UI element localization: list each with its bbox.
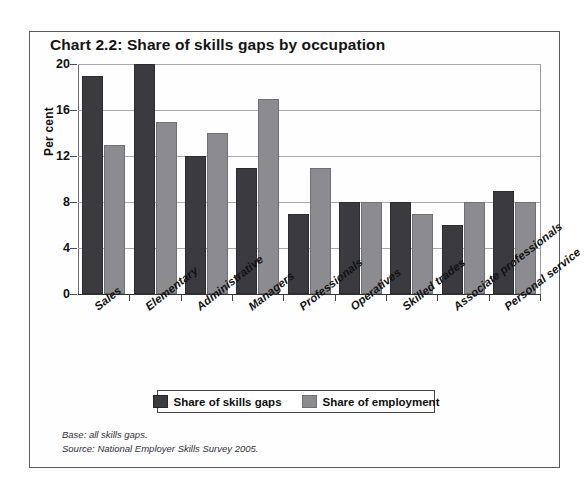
bar — [104, 145, 125, 295]
chart-page: Chart 2.2: Share of skills gaps by occup… — [0, 0, 585, 496]
y-axis-tick-label: 12 — [42, 149, 70, 163]
bar — [207, 133, 228, 294]
x-axis-tick-mark — [335, 295, 336, 301]
y-axis-ticks: 048121620 — [42, 64, 70, 295]
y-axis-tick-label: 16 — [42, 103, 70, 117]
y-axis-tick-mark — [70, 202, 77, 203]
legend-label: Share of skills gaps — [174, 396, 282, 408]
y-axis-tick-mark — [70, 294, 77, 295]
bar — [82, 76, 103, 295]
y-axis-tick-label: 8 — [42, 195, 70, 209]
x-axis-tick-mark — [283, 295, 284, 301]
y-axis-tick-mark — [70, 64, 77, 65]
legend-swatch-icon — [302, 395, 317, 408]
y-axis-tick-mark — [70, 110, 77, 111]
legend-item[interactable]: Share of employment — [302, 395, 440, 408]
chart-legend: Share of skills gapsShare of employment — [157, 390, 435, 413]
y-axis-tick-mark — [70, 248, 77, 249]
x-axis-tick-mark — [540, 295, 541, 301]
chart-footnotes: Base: all skills gaps. Source: National … — [62, 428, 258, 456]
chart-title: Chart 2.2: Share of skills gaps by occup… — [50, 36, 385, 54]
y-axis-tick-label: 4 — [42, 241, 70, 255]
bar — [156, 122, 177, 295]
footnote-source: Source: National Employer Skills Survey … — [62, 442, 258, 456]
plot-area — [78, 64, 540, 294]
legend-label: Share of employment — [323, 396, 440, 408]
legend-item[interactable]: Share of skills gaps — [153, 395, 282, 408]
x-axis-tick-mark — [181, 295, 182, 301]
y-axis-tick-mark — [70, 156, 77, 157]
x-axis-tick-mark — [489, 295, 490, 301]
x-axis-tick-mark — [386, 295, 387, 301]
bar — [310, 168, 331, 295]
y-axis-tick-label: 0 — [42, 287, 70, 301]
plot-right-edge — [540, 64, 541, 295]
footnote-base: Base: all skills gaps. — [62, 428, 258, 442]
bar — [134, 64, 155, 294]
legend-swatch-icon — [153, 395, 168, 408]
y-axis-tick-label: 20 — [42, 57, 70, 71]
x-axis-tick-mark — [232, 295, 233, 301]
x-axis-tick-mark — [129, 295, 130, 301]
x-axis-tick-mark — [437, 295, 438, 301]
